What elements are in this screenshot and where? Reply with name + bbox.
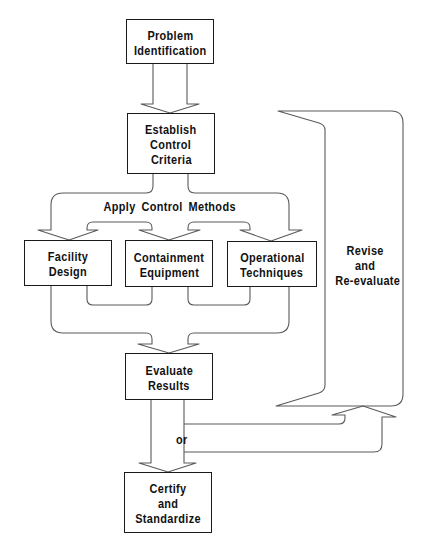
arrow-evaluate-to-revise: [184, 406, 396, 452]
box-problem-identification: Problem Identification: [126, 19, 214, 64]
box-certify-and-standardize: Certify and Standardize: [124, 472, 212, 533]
box-containment-equipment: Containment Equipment: [125, 240, 213, 287]
box-text-line: Operational: [240, 250, 304, 265]
box-text-line: Problem: [147, 28, 193, 43]
box-text-line: Facility: [48, 249, 88, 264]
label-revise-and-reevaluate: Revise and Re-evaluate: [329, 242, 401, 287]
label-apply-control-methods: Apply Control Methods: [90, 197, 250, 215]
box-text-line: Certify: [150, 481, 187, 496]
box-text-line: Standardize: [135, 511, 201, 526]
box-text-line: Identification: [134, 43, 207, 58]
flowchart-diagram: Problem Identification Establish Control…: [0, 0, 422, 550]
box-text-line: Establish: [145, 122, 197, 137]
box-text-line: Evaluate: [145, 363, 193, 378]
box-text-line: and: [158, 496, 178, 511]
label-or: or: [170, 430, 194, 448]
box-evaluate-results: Evaluate Results: [125, 353, 213, 400]
box-establish-control-criteria: Establish Control Criteria: [127, 113, 215, 174]
label-text: Revise: [346, 243, 383, 258]
connector-facility-containment: [87, 286, 152, 305]
label-text: or: [176, 432, 188, 447]
box-text-line: Results: [148, 378, 190, 393]
label-text: and: [355, 258, 375, 273]
box-operational-techniques: Operational Techniques: [227, 241, 317, 287]
box-text-line: Equipment: [139, 265, 198, 280]
box-text-line: Design: [49, 264, 87, 279]
box-facility-design: Facility Design: [24, 240, 112, 286]
box-text-line: Criteria: [151, 152, 192, 167]
box-text-line: Techniques: [240, 265, 303, 280]
label-text: Apply Control Methods: [104, 199, 236, 214]
label-text: Re-evaluate: [335, 273, 400, 288]
box-text-line: Control: [150, 137, 191, 152]
arrow-problem-to-establish: [141, 64, 199, 113]
box-text-line: Containment: [134, 250, 204, 265]
connector-containment-operational: [188, 287, 250, 305]
